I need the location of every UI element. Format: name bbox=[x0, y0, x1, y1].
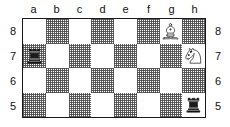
black-rook-icon[interactable] bbox=[182, 93, 205, 118]
rank-label-column-right: 8 7 6 5 bbox=[210, 18, 226, 118]
rank-label-right-7: 7 bbox=[210, 43, 226, 68]
square-g5[interactable] bbox=[160, 93, 183, 118]
file-label-row: a b c d e f g h bbox=[22, 1, 206, 17]
square-a7[interactable] bbox=[23, 44, 46, 69]
square-g8[interactable] bbox=[160, 19, 183, 44]
square-a8[interactable] bbox=[23, 19, 46, 44]
square-g7[interactable] bbox=[160, 44, 183, 69]
board-rank-6 bbox=[23, 68, 205, 93]
file-label-h: h bbox=[183, 1, 206, 17]
board-rank-7 bbox=[23, 44, 205, 69]
file-label-d: d bbox=[91, 1, 114, 17]
square-b8[interactable] bbox=[46, 19, 69, 44]
square-c8[interactable] bbox=[69, 19, 92, 44]
square-d6[interactable] bbox=[91, 68, 114, 93]
square-c6[interactable] bbox=[69, 68, 92, 93]
square-f8[interactable] bbox=[137, 19, 160, 44]
square-h6[interactable] bbox=[182, 68, 205, 93]
file-label-g: g bbox=[160, 1, 183, 17]
square-f7[interactable] bbox=[137, 44, 160, 69]
square-e7[interactable] bbox=[114, 44, 137, 69]
square-f5[interactable] bbox=[137, 93, 160, 118]
rank-label-left-8: 8 bbox=[5, 18, 21, 43]
square-e5[interactable] bbox=[114, 93, 137, 118]
square-d5[interactable] bbox=[91, 93, 114, 118]
square-g6[interactable] bbox=[160, 68, 183, 93]
rank-label-right-6: 6 bbox=[210, 68, 226, 93]
rank-label-left-6: 6 bbox=[5, 68, 21, 93]
square-c5[interactable] bbox=[69, 93, 92, 118]
rank-label-column-left: 8 7 6 5 bbox=[5, 18, 21, 118]
rank-label-right-5: 5 bbox=[210, 93, 226, 118]
white-bishop-icon[interactable] bbox=[160, 19, 183, 44]
square-e8[interactable] bbox=[114, 19, 137, 44]
board-grid bbox=[22, 18, 206, 118]
square-d8[interactable] bbox=[91, 19, 114, 44]
chess-board-diagram: a b c d e f g h 8 7 6 5 8 7 6 5 bbox=[0, 0, 230, 127]
square-b6[interactable] bbox=[46, 68, 69, 93]
rank-label-right-8: 8 bbox=[210, 18, 226, 43]
square-b7[interactable] bbox=[46, 44, 69, 69]
file-label-b: b bbox=[45, 1, 68, 17]
file-label-e: e bbox=[114, 1, 137, 17]
square-a5[interactable] bbox=[23, 93, 46, 118]
square-c7[interactable] bbox=[69, 44, 92, 69]
file-label-f: f bbox=[137, 1, 160, 17]
square-h7[interactable] bbox=[182, 44, 205, 69]
square-b5[interactable] bbox=[46, 93, 69, 118]
black-rook-icon[interactable] bbox=[23, 44, 46, 69]
square-a6[interactable] bbox=[23, 68, 46, 93]
white-knight-icon[interactable] bbox=[182, 44, 205, 69]
square-h8[interactable] bbox=[182, 19, 205, 44]
board-rank-5 bbox=[23, 93, 205, 118]
board-rank-8 bbox=[23, 19, 205, 44]
rank-label-left-5: 5 bbox=[5, 93, 21, 118]
file-label-c: c bbox=[68, 1, 91, 17]
file-label-a: a bbox=[22, 1, 45, 17]
square-h5[interactable] bbox=[182, 93, 205, 118]
square-f6[interactable] bbox=[137, 68, 160, 93]
rank-label-left-7: 7 bbox=[5, 43, 21, 68]
square-e6[interactable] bbox=[114, 68, 137, 93]
square-d7[interactable] bbox=[91, 44, 114, 69]
